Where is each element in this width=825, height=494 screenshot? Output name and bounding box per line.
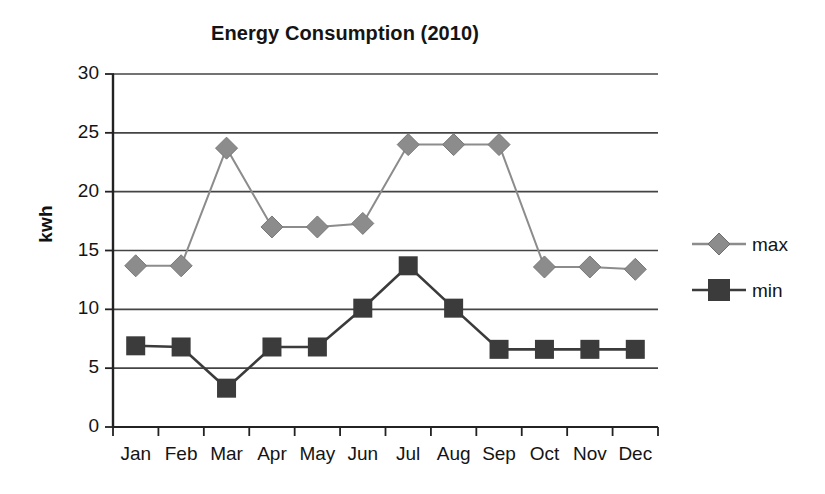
y-axis-title: kwh (35, 204, 57, 244)
y-tick-label-5: 5 (55, 356, 99, 378)
chart-title: Energy Consumption (2010) (0, 22, 690, 45)
data-point-max-Oct (533, 256, 555, 278)
data-point-max-Jun (352, 212, 374, 234)
x-tick-label-dec: Dec (613, 443, 658, 465)
data-point-max-Dec (624, 258, 646, 280)
x-tick-label-feb: Feb (158, 443, 203, 465)
x-tick-label-jun: Jun (340, 443, 385, 465)
data-point-max-May (306, 216, 328, 238)
data-point-min-Mar (217, 379, 236, 398)
data-point-min-Oct (535, 340, 554, 359)
y-tick-label-0: 0 (55, 415, 99, 437)
data-point-min-Jan (126, 336, 145, 355)
data-point-max-Sep (488, 134, 510, 156)
data-point-min-Sep (490, 340, 509, 359)
legend-label-max: max (752, 234, 788, 256)
data-point-min-Feb (172, 337, 191, 356)
legend-entry-max: max (690, 228, 820, 274)
data-point-min-Jun (353, 299, 372, 318)
x-tick-label-jan: Jan (113, 443, 158, 465)
x-tick-label-sep: Sep (476, 443, 521, 465)
data-point-max-Nov (579, 256, 601, 278)
y-tick-label-25: 25 (55, 121, 99, 143)
data-point-min-Aug (444, 299, 463, 318)
x-tick-label-aug: Aug (431, 443, 476, 465)
data-point-max-Jul (397, 134, 419, 156)
data-point-min-May (308, 337, 327, 356)
data-point-max-Aug (443, 134, 465, 156)
data-point-max-Jan (125, 255, 147, 277)
data-point-max-Mar (216, 137, 238, 159)
energy-consumption-chart: Energy Consumption (2010) kwh 0510152025… (0, 0, 825, 494)
gridlines (113, 74, 658, 368)
x-tick-label-jul: Jul (386, 443, 431, 465)
legend-label-min: min (752, 280, 783, 302)
y-tick-label-20: 20 (55, 180, 99, 202)
x-tick-label-may: May (295, 443, 340, 465)
y-tick-label-30: 30 (55, 62, 99, 84)
x-tick-label-nov: Nov (567, 443, 612, 465)
x-tick-label-oct: Oct (522, 443, 567, 465)
x-axis-ticks (113, 427, 658, 436)
x-tick-label-apr: Apr (249, 443, 294, 465)
y-tick-label-10: 10 (55, 297, 99, 319)
y-tick-label-15: 15 (55, 239, 99, 261)
data-point-min-Jul (399, 256, 418, 275)
legend-marker-min (690, 274, 748, 306)
data-series-layer (125, 134, 647, 398)
chart-legend: max min (690, 228, 820, 320)
data-point-min-Nov (580, 340, 599, 359)
x-tick-label-mar: Mar (204, 443, 249, 465)
data-point-min-Apr (262, 337, 281, 356)
legend-entry-min: min (690, 274, 820, 320)
legend-marker-max (690, 228, 748, 260)
data-point-max-Feb (170, 255, 192, 277)
data-point-max-Apr (261, 216, 283, 238)
series-line-min (136, 266, 636, 388)
data-point-min-Dec (626, 340, 645, 359)
